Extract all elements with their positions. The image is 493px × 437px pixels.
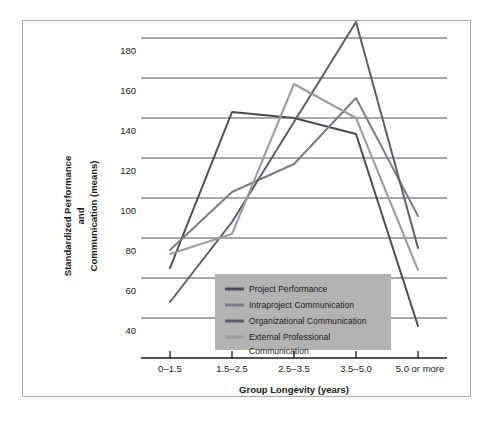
series-line (170, 22, 418, 302)
y-tick-label: 140 (120, 125, 136, 136)
y-tick-label: 120 (120, 165, 136, 176)
x-tick-label: 0–1.5 (158, 363, 182, 374)
x-tick-label: 2.5–3.5 (278, 363, 310, 374)
y-tick-label: 100 (120, 205, 136, 216)
y-tick-labels: 180 160 140 120 100 80 60 40 (120, 45, 136, 336)
x-tick-label: 3.5–5.0 (340, 363, 372, 374)
x-axis (141, 351, 447, 358)
y-axis-title-line-3: Communication (means) (88, 161, 99, 272)
y-tick-label: 40 (125, 325, 136, 336)
legend-item-label: Communication (249, 346, 309, 356)
y-tick-label: 60 (125, 285, 136, 296)
x-axis-title: Group Longevity (years) (239, 384, 349, 395)
legend-item-label: Intraproject Communication (249, 300, 354, 310)
line-chart: Standardized Performance and Communicati… (23, 21, 470, 396)
y-tick-label: 160 (120, 85, 136, 96)
y-axis-title: Standardized Performance and Communicati… (62, 156, 99, 276)
x-tick-label: 1.5–2.5 (216, 363, 248, 374)
legend-item-label: Organizational Communication (249, 316, 367, 326)
legend-item-label: Project Performance (249, 284, 328, 294)
y-axis-title-line-2: and (75, 207, 86, 224)
x-tick-labels: 0–1.5 1.5–2.5 2.5–3.5 3.5–5.0 5.0 or mor… (158, 363, 444, 374)
x-tick-label: 5.0 or more (396, 363, 445, 374)
y-axis-title-line-1: Standardized Performance (62, 156, 73, 276)
legend: Project Performance Intraproject Communi… (215, 274, 391, 356)
figure-frame: Standardized Performance and Communicati… (22, 20, 471, 397)
y-tick-label: 180 (120, 45, 136, 56)
legend-item-label: External Professional (249, 332, 330, 342)
y-tick-label: 80 (125, 245, 136, 256)
